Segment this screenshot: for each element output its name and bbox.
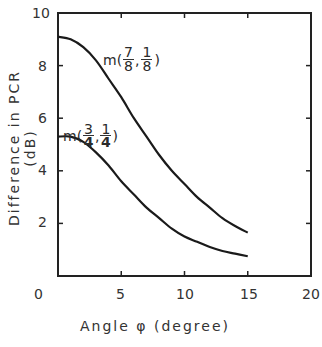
y-tick-8: 8 — [38, 58, 47, 74]
x-tick-5: 5 — [116, 286, 125, 302]
x-tick-10: 10 — [176, 286, 194, 302]
y-tick-4: 4 — [38, 162, 47, 178]
y-tick-10: 10 — [32, 5, 50, 21]
series1-annotation: m( 78 , 18 ) — [103, 46, 160, 73]
x-axis-label: Angle φ (degree) — [80, 318, 230, 334]
chart-plot — [0, 0, 322, 347]
x-tick-15: 15 — [240, 286, 258, 302]
x-tick-0: 0 — [34, 286, 43, 302]
series2-annotation: m( 34 , 14 ) — [63, 123, 118, 148]
y-tick-2: 2 — [38, 214, 47, 230]
y-axis-label: Difference in PCR (dB) — [6, 68, 38, 228]
y-tick-6: 6 — [38, 110, 47, 126]
series-m-3-4-1-4 — [58, 136, 248, 256]
x-tick-20: 20 — [302, 286, 320, 302]
